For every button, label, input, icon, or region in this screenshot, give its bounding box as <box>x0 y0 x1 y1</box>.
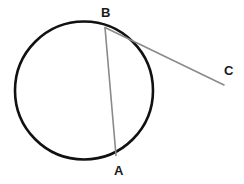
chord-ab-line <box>105 28 116 156</box>
secant-bc-line <box>105 28 224 86</box>
geometry-canvas <box>0 0 244 184</box>
point-label-b: B <box>101 6 110 19</box>
circle-shape <box>15 22 153 160</box>
geometry-diagram: B A C <box>0 0 244 184</box>
point-label-c: C <box>224 64 233 77</box>
point-label-a: A <box>114 164 123 177</box>
